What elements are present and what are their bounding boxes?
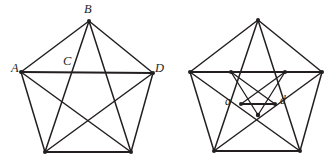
label-a-right-figure: a [225, 96, 231, 108]
left-diagonal-a-d [21, 72, 153, 73]
left-vertex-e-dot [129, 150, 133, 154]
right-vertex-d-outer-dot [320, 70, 324, 74]
right-diagonal-b-f [214, 20, 258, 151]
label-d-left-figure: D [155, 62, 164, 75]
label-c-left-figure: C [63, 55, 71, 68]
pentagram-diagram-canvas [0, 0, 335, 162]
right-inner-diagonal-topright-a [241, 72, 285, 104]
label-a-left-figure: A [11, 62, 19, 75]
left-diagonal-a-e [21, 72, 131, 152]
right-vertex-a-outer-dot [188, 70, 192, 74]
right-inner-vertex-a-dot [239, 102, 243, 106]
pentagram-figure-pair: A B C D a d [0, 0, 335, 162]
right-inner-vertex-topleft-dot [229, 70, 233, 74]
right-diagonal-a-e [190, 72, 300, 151]
left-diagonal-b-e [89, 21, 131, 152]
right-vertex-b-dot [256, 18, 260, 22]
label-b-left-figure: B [84, 3, 92, 16]
label-d-right-figure: d [280, 95, 286, 107]
left-diagonal-b-f [45, 21, 89, 152]
left-vertex-f-dot [43, 150, 47, 154]
left-diagonal-d-f [45, 73, 153, 152]
left-vertex-b-dot [87, 19, 91, 23]
left-figure-group [19, 19, 155, 154]
right-diagonal-b-e [258, 20, 300, 151]
right-vertex-e-dot [298, 149, 302, 153]
right-pentagram-diagonals [190, 20, 322, 151]
right-inner-pentagram-diagonals [231, 72, 285, 115]
right-inner-vertex-d-dot [273, 102, 277, 106]
right-inner-vertex-bottom-dot [256, 113, 260, 117]
left-pentagram-diagonals [21, 21, 153, 152]
right-inner-diagonal-topleft-bottom [231, 72, 258, 115]
right-vertex-f-dot [212, 149, 216, 153]
right-figure-group [188, 18, 324, 153]
left-vertex-a-dot [19, 70, 23, 74]
right-inner-vertex-topright-dot [283, 70, 287, 74]
